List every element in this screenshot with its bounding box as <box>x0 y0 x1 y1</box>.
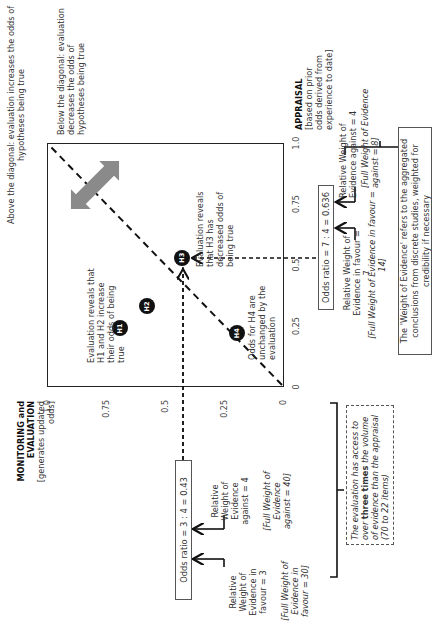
weight-definition-box: The 'Weight of Evidence' refers to the a… <box>398 127 432 355</box>
appraisal-favour-full: [Full Weight of Evidence in favour = 14] <box>367 190 387 340</box>
hypothesis-node-h2: H2 <box>139 298 155 314</box>
hypothesis-node-h3: H3 <box>174 250 190 266</box>
odds-diagram: Above the diagonal: evaluation increases… <box>0 0 444 625</box>
hypothesis-node-h4: H4 <box>229 325 245 341</box>
appraisal-against-label: Relative Weight of Evidence against = 4 <box>338 106 358 198</box>
comparison-note-emphasis: three times <box>360 466 370 519</box>
double-arrow-icon <box>61 151 129 219</box>
evaluation-brace <box>330 403 344 577</box>
appraisal-odds-ratio-box: Odds ratio = 7 : 4 = 0.636 <box>318 185 334 310</box>
evaluation-against-label: Relative Weight of Evidence against = 4 <box>210 473 250 529</box>
evaluation-against-full: [Full Weight of Evidence against = 40] <box>262 471 292 531</box>
annotation-h1-h2: Evaluation reveals that H1 and H2 increa… <box>86 267 126 363</box>
appraisal-against-full: [Full Weight of Evidence against = 8] <box>360 58 380 188</box>
comparison-note: The evaluation has access to over three … <box>346 405 394 545</box>
evaluation-favour-label: Relative Weight of Evidence in favour = … <box>228 561 268 623</box>
annotation-h4: Odds for H4 are unchanged by the evaluat… <box>247 264 277 360</box>
annotation-h3: Evaluation reveals that H3 has decreased… <box>195 179 235 267</box>
evaluation-favour-full: [Full Weight of Evidence in favour = 30] <box>280 561 310 621</box>
evaluation-odds-ratio-box: Odds ratio = 3 : 4 = 0.43 <box>175 460 192 600</box>
